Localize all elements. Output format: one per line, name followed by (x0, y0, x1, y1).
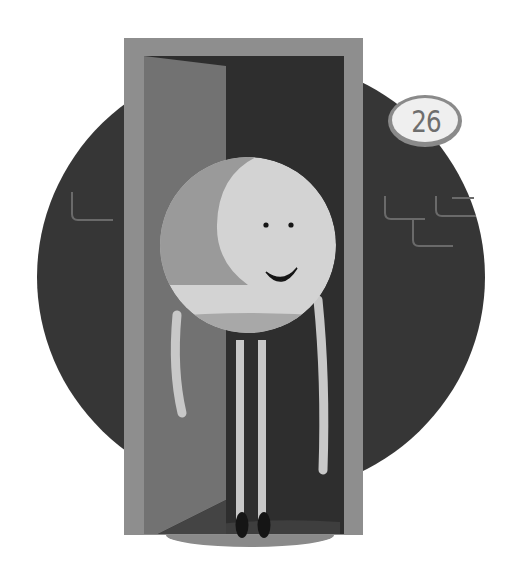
illustration-canvas (0, 0, 521, 587)
left-eye (263, 222, 268, 227)
left-shoe (236, 512, 249, 538)
number-badge-inner (392, 98, 458, 142)
right-leg (258, 340, 266, 520)
right-eye (288, 222, 293, 227)
left-leg (236, 340, 244, 520)
right-shoe (258, 512, 271, 538)
